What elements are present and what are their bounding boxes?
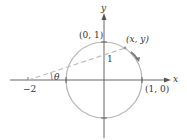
x-axis-label: x (173, 75, 178, 84)
moving-point-label: (x, y) (126, 35, 149, 44)
top-point-label: (0, 1) (79, 31, 103, 40)
y-axis-arrow-icon (102, 13, 107, 20)
y-axis-label: y (101, 4, 106, 13)
projection-line (28, 48, 125, 80)
angle-arc (51, 73, 52, 80)
unit-circle-diagram: y x (0, 1) (x, y) 1 θ −2 (1, 0) (0, 0, 187, 140)
angle-label: θ (54, 73, 59, 82)
moving-point-marker (124, 47, 127, 50)
left-point-label: −2 (23, 85, 36, 94)
x-axis-arrow-icon (164, 78, 171, 83)
diagram-canvas (0, 0, 187, 140)
unit-one-label: 1 (107, 55, 113, 64)
right-point-label: (1, 0) (145, 85, 169, 94)
